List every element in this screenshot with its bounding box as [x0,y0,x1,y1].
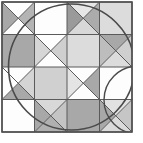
cell-r2c1-solid [2,35,35,68]
cell-r4c1-solid [2,100,35,133]
cell-r1c3 [67,2,100,35]
cell-r2c3-solid [67,35,100,68]
cell-r3c2-solid [35,67,68,100]
cell-r2c1 [2,35,35,68]
cell-r2c3 [67,35,100,68]
cell-r4c1 [2,100,35,133]
quilt-canvas [0,0,143,143]
cell-r4c3 [67,100,100,133]
cell-r1c4-solid [100,2,133,35]
cell-r3c3 [67,67,100,100]
cell-r2c4 [100,35,133,68]
cell-r1c1 [2,2,35,35]
cell-r2c2 [35,35,68,68]
quilt-figure: Black and white quilt pattern of gray an… [0,0,143,143]
cell-r3c2 [35,67,68,100]
cell-r3c1 [2,67,35,100]
cell-r4c3-solid [67,100,100,133]
cell-r1c4 [100,2,133,35]
